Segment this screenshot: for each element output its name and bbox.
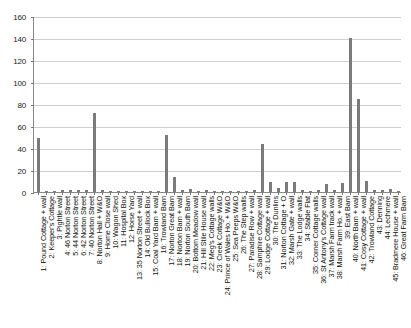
y-tick-mark xyxy=(31,193,34,194)
x-tick-mark xyxy=(198,192,199,195)
x-tick-mark xyxy=(78,192,79,195)
x-tick-mark xyxy=(286,192,287,195)
bar xyxy=(261,144,264,192)
x-tick-label: 32: Marsh Gate + wall xyxy=(288,196,295,265)
x-tick-label: 6: 42 Norton Street xyxy=(80,196,87,256)
x-tick-label: 25: Sea Peeps W&O xyxy=(232,196,239,262)
x-tick-label: 14: Old Bullock Box xyxy=(144,196,151,258)
x-tick-label: 17: Norton Great Barn xyxy=(168,196,175,266)
x-tick-mark xyxy=(262,192,263,195)
y-tick-label: 40 xyxy=(0,145,26,154)
x-tick-label: 16: Trowland Barn xyxy=(160,196,167,254)
x-tick-label: 43: Denning xyxy=(376,196,383,234)
x-tick-mark xyxy=(390,192,391,195)
x-tick-mark xyxy=(334,192,335,195)
x-tick-mark xyxy=(342,192,343,195)
x-tick-mark xyxy=(126,192,127,195)
x-tick-label: 42: Trowland Cottage xyxy=(368,196,375,263)
bar-chart: 020406080100120140160 1: Pound Cottage +… xyxy=(0,0,411,328)
x-tick-mark xyxy=(238,192,239,195)
x-tick-label: 31: Norton Cottage + O xyxy=(280,196,287,269)
y-tick-label: 100 xyxy=(0,79,26,88)
x-tick-label: 15: Coal Yard Barn + wall xyxy=(152,196,159,276)
x-tick-mark xyxy=(382,192,383,195)
x-tick-label: 36: St Antony's Cottage wall xyxy=(320,196,327,284)
y-tick-label: 0 xyxy=(0,189,26,198)
x-tick-label: 20: Bottom Meadow wall xyxy=(192,196,199,273)
x-tick-label: 39: East Barn xyxy=(344,196,351,239)
x-tick-label: 37: Marsh Farm track wall xyxy=(328,196,335,277)
x-tick-label: 8: Norton Hall + W&O xyxy=(96,196,103,264)
x-tick-mark xyxy=(86,192,87,195)
x-tick-mark xyxy=(326,192,327,195)
x-tick-label: 22: Meg's Cottage walls xyxy=(208,196,215,271)
x-tick-mark xyxy=(214,192,215,195)
x-tick-mark xyxy=(310,192,311,195)
x-tick-mark xyxy=(206,192,207,195)
x-tick-mark xyxy=(230,192,231,195)
x-tick-label: 9: Home Close wall xyxy=(104,196,111,257)
y-tick-label: 140 xyxy=(0,35,26,44)
x-tick-mark xyxy=(374,192,375,195)
x-tick-label: 2: Keeper's Cottage xyxy=(48,196,55,258)
bar xyxy=(293,182,296,192)
x-tick-mark xyxy=(294,192,295,195)
bar xyxy=(165,135,168,192)
x-tick-mark xyxy=(142,192,143,195)
x-tick-label: 11: Hospital Box xyxy=(120,196,127,247)
y-tick-label: 80 xyxy=(0,101,26,110)
x-tick-label: 30: The Dunlins xyxy=(272,196,279,245)
x-tick-label: 10: Wagon Shed xyxy=(112,196,119,249)
x-tick-label: 29: Lodge Cottage + wall xyxy=(264,196,271,275)
x-tick-mark xyxy=(110,192,111,195)
bar xyxy=(357,99,360,193)
bar xyxy=(173,177,176,192)
x-tick-label: 4: 46 Norton Street xyxy=(64,196,71,256)
y-tick-label: 120 xyxy=(0,57,26,66)
x-tick-label: 21: Hill Stile House wall xyxy=(200,196,207,270)
x-tick-mark xyxy=(358,192,359,195)
bar xyxy=(37,138,40,192)
x-tick-mark xyxy=(366,192,367,195)
x-tick-mark xyxy=(150,192,151,195)
x-tick-label: 41: Cosy Cottage + wall xyxy=(360,196,367,271)
x-tick-label: 35: Corner Cottage walls xyxy=(312,196,319,274)
x-tick-mark xyxy=(398,192,399,195)
bar xyxy=(269,182,272,192)
bar xyxy=(285,182,288,192)
x-tick-label: 40: North Barn + wall xyxy=(352,196,359,262)
x-tick-mark xyxy=(222,192,223,195)
x-tick-label: 18: Norton Barn + wall xyxy=(176,196,183,266)
x-tick-mark xyxy=(46,192,47,195)
x-tick-label: 45: Bradmere House + wall xyxy=(392,196,399,282)
x-axis-labels: 1: Pound Cottage + wall2: Keeper's Cotta… xyxy=(33,196,401,328)
x-tick-label: 13: 35 Norton Street + wall xyxy=(136,196,143,280)
x-tick-label: 27: Paradise Row + wall xyxy=(248,196,255,272)
x-tick-label: 34: Stable Flat xyxy=(304,196,311,242)
x-tick-label: 5: 44 Norton Street xyxy=(72,196,79,256)
x-tick-mark xyxy=(94,192,95,195)
x-tick-label: 44: Lechmere xyxy=(384,196,391,239)
plot-area xyxy=(33,17,401,193)
bar xyxy=(325,184,328,192)
x-tick-mark xyxy=(246,192,247,195)
bar xyxy=(365,181,368,192)
x-tick-mark xyxy=(174,192,175,195)
x-tick-label: 28: Samphire Cottage wall xyxy=(256,196,263,279)
y-tick-label: 60 xyxy=(0,123,26,132)
x-tick-label: 26: The Step walls xyxy=(240,196,247,254)
x-tick-mark xyxy=(302,192,303,195)
x-tick-label: 1: Pound Cottage + wall xyxy=(40,196,47,271)
x-tick-label: 12: Horse Yard xyxy=(128,196,135,243)
x-tick-label: 38: Marsh Farm Ho. + wall xyxy=(336,196,343,279)
y-tick-label: 20 xyxy=(0,167,26,176)
bar xyxy=(349,38,352,192)
x-tick-label: 46: Great Farm Barn xyxy=(400,196,407,261)
x-tick-label: 24: Prince of Wales Ho. + W&O xyxy=(224,196,231,295)
x-tick-mark xyxy=(102,192,103,195)
x-tick-mark xyxy=(278,192,279,195)
x-tick-mark xyxy=(318,192,319,195)
bar xyxy=(93,113,96,192)
bar xyxy=(341,183,344,192)
x-tick-mark xyxy=(38,192,39,195)
